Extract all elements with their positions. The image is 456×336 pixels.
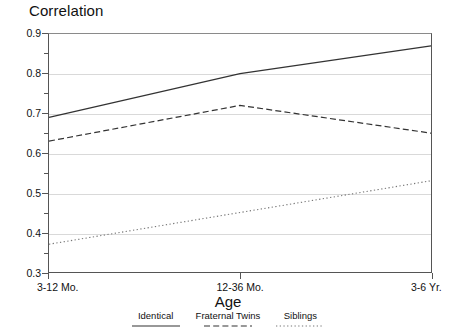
- series-line-siblings: [49, 181, 431, 244]
- plot-area: [48, 33, 432, 273]
- legend-item-fraternal-twins[interactable]: Fraternal Twins: [196, 310, 261, 329]
- legend-label: Fraternal Twins: [196, 310, 261, 321]
- legend-item-identical[interactable]: Identical: [132, 310, 180, 329]
- series-lines: [49, 34, 431, 272]
- legend-label: Siblings: [284, 310, 317, 321]
- legend-swatch-dashed: [204, 323, 252, 329]
- x-axis-label: 12-36 Mo.: [217, 281, 264, 293]
- x-axis-tick: [240, 273, 241, 279]
- correlation-line-chart: Correlation 0.90.80.70.60.50.40.3 3-12 M…: [0, 0, 456, 336]
- legend-label: Identical: [138, 310, 173, 321]
- x-axis-tick: [48, 273, 49, 279]
- y-axis-label: 0.7: [1, 107, 41, 119]
- legend-item-siblings[interactable]: Siblings: [276, 310, 324, 329]
- series-line-identical: [49, 46, 431, 117]
- legend-swatch-solid: [132, 323, 180, 329]
- y-axis-label: 0.5: [1, 187, 41, 199]
- x-axis-label: 3-12 Mo.: [37, 281, 78, 293]
- x-axis-title: Age: [0, 293, 456, 310]
- series-line-fraternal-twins: [49, 105, 431, 141]
- x-axis-label: 3-6 Yr.: [411, 281, 442, 293]
- y-axis-label: 0.9: [1, 27, 41, 39]
- x-axis-tick: [432, 273, 433, 279]
- y-axis-label: 0.8: [1, 67, 41, 79]
- legend-swatch-dotted: [276, 323, 324, 329]
- y-axis-title: Correlation: [29, 2, 103, 19]
- y-axis-label: 0.6: [1, 147, 41, 159]
- chart-legend: IdenticalFraternal TwinsSiblings: [0, 310, 456, 329]
- y-axis-label: 0.4: [1, 227, 41, 239]
- y-axis-label: 0.3: [1, 267, 41, 279]
